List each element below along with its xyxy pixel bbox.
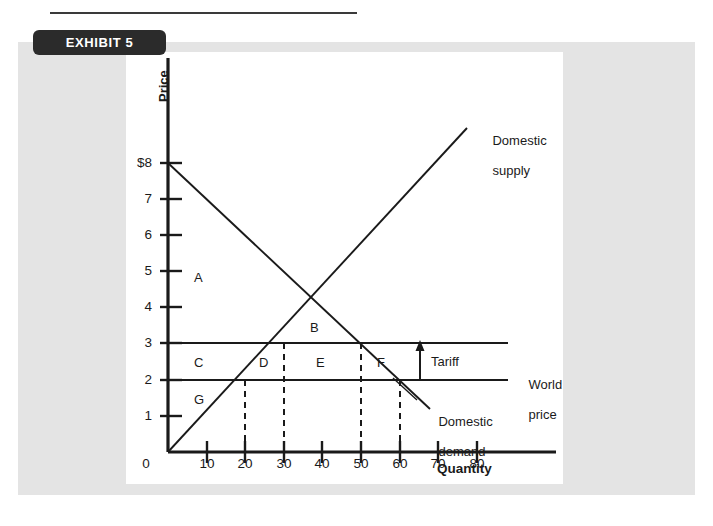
x-tick-label-20: 20 [225,456,265,471]
domestic-supply-curve [168,128,467,452]
region-label-d: D [259,355,268,370]
world-price-label: World price [514,362,562,437]
chart-canvas [0,0,713,526]
world-price-label-line1: World [528,377,562,392]
y-tick-label-2: 2 [118,372,152,387]
x-tick-label-40: 40 [302,456,342,471]
y-tick-label-3: 3 [118,335,152,350]
y-tick-label-1: 1 [118,408,152,423]
y-tick-label-8: $8 [118,155,152,170]
region-label-b: B [310,320,319,335]
x-tick-label-50: 50 [341,456,381,471]
x-tick-label-30: 30 [264,456,304,471]
domestic-demand-label: Domestic demand [424,399,493,474]
region-label-g: G [194,392,204,407]
y-tick-label-5: 5 [118,263,152,278]
region-label-a: A [194,270,203,285]
domestic-demand-label-line2: demand [438,444,485,459]
domestic-supply-label-line2: supply [492,163,530,178]
world-price-label-line2: price [528,407,556,422]
region-label-e: E [316,355,325,370]
domestic-supply-label-line1: Domestic [492,133,546,148]
domestic-supply-label: Domestic supply [478,118,547,193]
origin-label: 0 [136,456,156,471]
domestic-demand-label-line1: Domestic [438,414,492,429]
region-label-f: F [377,355,385,370]
y-tick-label-7: 7 [118,191,152,206]
x-tick-label-60: 60 [380,456,420,471]
tariff-label: Tariff [431,354,459,369]
y-tick-label-6: 6 [118,227,152,242]
exhibit-figure: EXHIBIT 5 [0,0,713,526]
y-tick-marks [160,163,182,416]
y-axis-title: Price [156,70,171,102]
x-tick-label-10: 10 [187,456,227,471]
tariff-arrow [416,340,425,379]
domestic-demand-curve [168,163,430,409]
y-tick-label-4: 4 [118,299,152,314]
demand-label-leader-line [393,378,417,400]
region-label-c: C [194,355,203,370]
